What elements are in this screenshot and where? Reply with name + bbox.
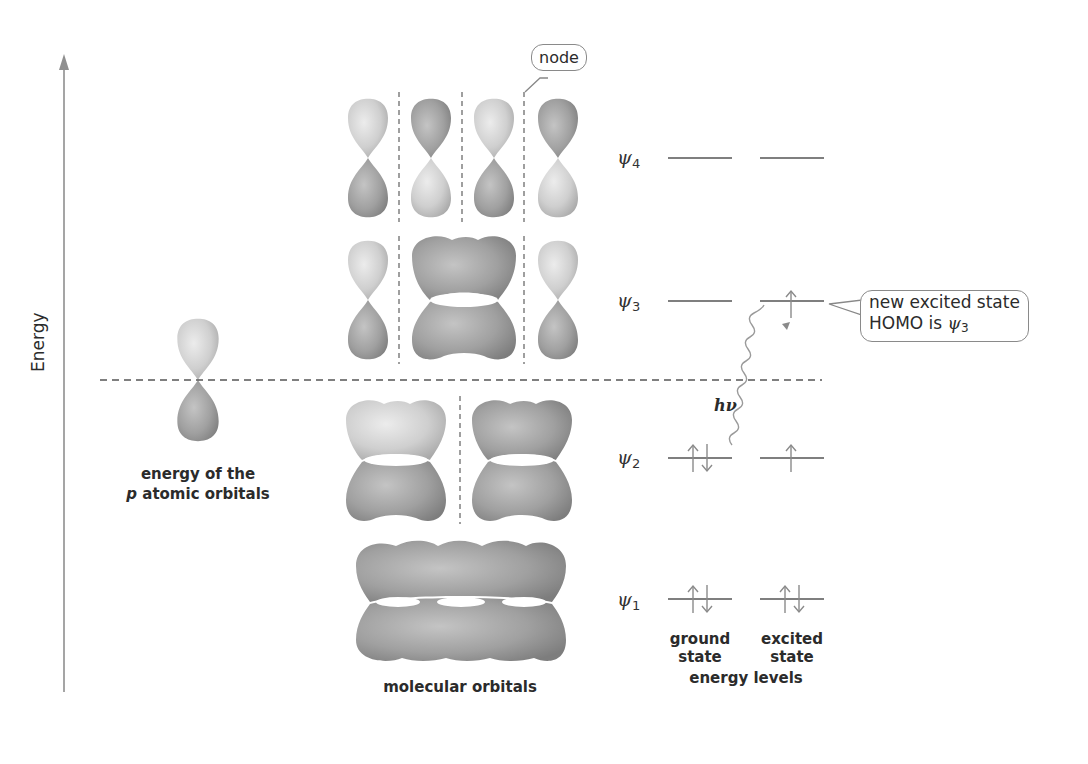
- photon-wavy-arrow-icon: [729, 305, 790, 445]
- node-callout-pointer: [525, 78, 548, 92]
- excited-homo-callout: new excited state HOMO is ψ3: [860, 290, 1029, 342]
- excited-callout-line1: new excited state: [869, 292, 1020, 313]
- excited-state-caption: excited state: [748, 630, 836, 666]
- psi1-label: ψ1: [617, 588, 640, 613]
- spin-up-arrow-icon: [786, 291, 796, 318]
- axis-arrow-icon: [59, 54, 69, 70]
- atomic-orbital-caption: energy of the p atomic orbitals: [108, 464, 288, 504]
- psi3-label: ψ3: [617, 289, 640, 314]
- mo-psi4: [348, 92, 578, 222]
- excited-callout-pointer: [829, 300, 862, 315]
- molecular-orbitals-caption: molecular orbitals: [352, 678, 568, 696]
- energy-axis-label: Energy: [28, 292, 48, 372]
- psi2-label: ψ2: [617, 446, 640, 471]
- node-callout: node: [531, 44, 587, 71]
- orbital-diagram: [0, 0, 1088, 764]
- energy-levels-caption: energy levels: [656, 669, 836, 687]
- photon-label: hν: [714, 396, 737, 415]
- mo-psi3: [348, 236, 578, 364]
- atomic-caption-line2: p atomic orbitals: [108, 484, 288, 504]
- ground-state-caption: ground state: [656, 630, 744, 666]
- mo-psi2: [346, 396, 572, 524]
- excited-callout-line2: HOMO is ψ3: [869, 313, 1020, 339]
- psi4-label: ψ4: [617, 146, 640, 171]
- atomic-caption-line1: energy of the: [108, 464, 288, 484]
- energy-axis: [59, 54, 69, 692]
- mo-psi1: [356, 541, 566, 661]
